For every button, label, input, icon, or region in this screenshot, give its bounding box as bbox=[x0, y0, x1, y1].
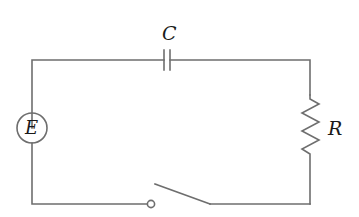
switch-blade bbox=[155, 184, 210, 204]
top-wire bbox=[32, 60, 310, 128]
resistor bbox=[302, 95, 319, 204]
emf-source-label: E bbox=[24, 117, 38, 138]
switch bbox=[147, 184, 210, 208]
switch-terminal bbox=[147, 200, 154, 207]
capacitor-label: C bbox=[162, 22, 177, 44]
bottom-left-wire bbox=[32, 143, 147, 204]
circuit-diagram: C R E bbox=[0, 0, 359, 217]
capacitor bbox=[164, 50, 170, 70]
resistor-label: R bbox=[327, 117, 342, 139]
